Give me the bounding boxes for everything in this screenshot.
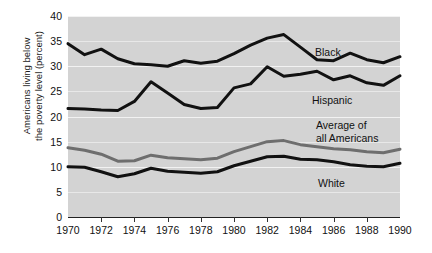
series-label-average-of: Average of all Americans — [316, 119, 378, 144]
y-tick-label-20: 20 — [38, 111, 62, 123]
y-tick-label-30: 30 — [38, 60, 62, 72]
y-tick-label-25: 25 — [38, 85, 62, 97]
x-tick-1972 — [101, 217, 102, 222]
x-tick-label-1984: 1984 — [289, 224, 312, 236]
x-tick-label-1980: 1980 — [222, 224, 245, 236]
x-tick-1982 — [267, 217, 268, 222]
y-tick-label-40: 40 — [38, 10, 62, 22]
x-tick-label-1976: 1976 — [156, 224, 179, 236]
y-tick-label-35: 35 — [38, 35, 62, 47]
x-tick-label-1972: 1972 — [90, 224, 113, 236]
series-layer — [68, 16, 400, 217]
x-tick-1986 — [334, 217, 335, 222]
x-tick-label-1974: 1974 — [123, 224, 146, 236]
x-tick-label-1986: 1986 — [322, 224, 345, 236]
x-tick-label-1982: 1982 — [256, 224, 279, 236]
x-tick-label-1988: 1988 — [355, 224, 378, 236]
x-tick-1976 — [168, 217, 169, 222]
series-line-white — [68, 156, 400, 177]
y-tick-label-10: 10 — [38, 161, 62, 173]
x-tick-label-1990: 1990 — [388, 224, 411, 236]
series-label-black: Black — [315, 46, 341, 59]
x-tick-label-1970: 1970 — [56, 224, 79, 236]
x-tick-1978 — [201, 217, 202, 222]
series-label-hispanic: Hispanic — [312, 94, 352, 107]
x-tick-1988 — [367, 217, 368, 222]
x-tick-1974 — [134, 217, 135, 222]
x-tick-1984 — [300, 217, 301, 222]
series-label-white: White — [318, 177, 345, 190]
poverty-rate-line-chart: Americans living below the poverty level… — [0, 0, 432, 253]
x-tick-1980 — [234, 217, 235, 222]
y-tick-label-15: 15 — [38, 136, 62, 148]
y-tick-label-0: 0 — [38, 211, 62, 223]
x-tick-label-1978: 1978 — [189, 224, 212, 236]
y-tick-label-5: 5 — [38, 186, 62, 198]
series-line-black — [68, 35, 400, 67]
